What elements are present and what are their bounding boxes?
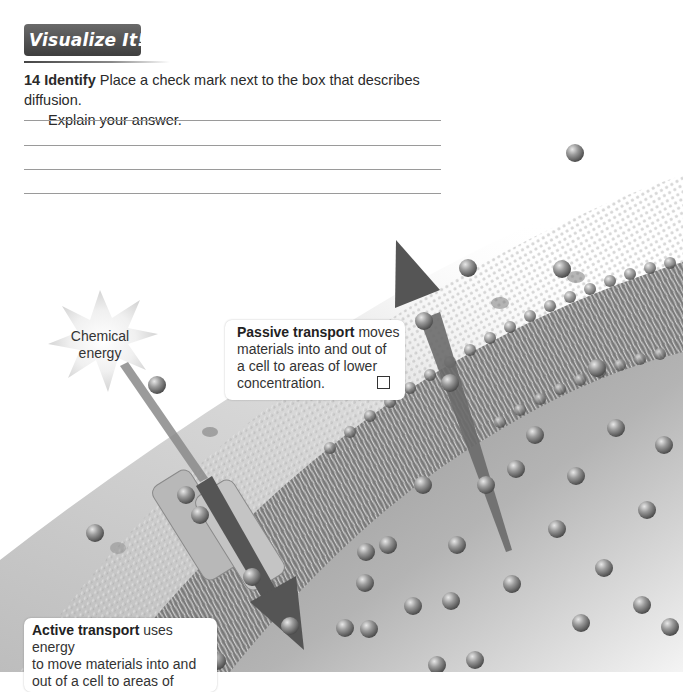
visualize-it-banner: Visualize It! <box>24 24 141 56</box>
question-number: 14 <box>24 72 40 88</box>
section-title: Visualize It! <box>29 30 145 50</box>
passive-transport-term: Passive transport <box>237 324 355 340</box>
answer-line-2[interactable] <box>24 145 441 146</box>
banner-divider <box>24 61 170 63</box>
active-transport-callout: Active transport uses energy to move mat… <box>24 618 217 692</box>
question-14: 14 Identify Place a check mark next to t… <box>24 70 454 130</box>
question-verb: Identify <box>44 72 96 88</box>
answer-line-4[interactable] <box>24 193 441 194</box>
passive-transport-checkbox[interactable] <box>377 376 390 389</box>
chemical-energy-label: Chemical energy <box>58 328 142 362</box>
answer-line-1[interactable] <box>24 120 441 121</box>
passive-transport-callout: Passive transport moves materials into a… <box>225 320 405 400</box>
answer-line-3[interactable] <box>24 169 441 170</box>
active-transport-term: Active transport <box>32 622 139 638</box>
